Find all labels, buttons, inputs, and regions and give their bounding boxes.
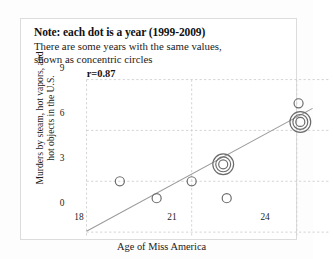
data-point [213, 154, 234, 175]
data-point-ring [294, 99, 303, 108]
data-point-ring [152, 194, 161, 203]
data-point-ring [293, 114, 308, 129]
scatter-plot-canvas [21, 19, 333, 259]
data-point-ring [219, 160, 228, 169]
data-point [152, 194, 161, 203]
data-point-ring [216, 157, 231, 172]
data-point [294, 99, 303, 108]
chart-card: Note: each dot is a year (1999-2009) The… [20, 18, 297, 240]
data-point [290, 112, 311, 133]
data-point [222, 194, 231, 203]
data-point-ring [222, 194, 231, 203]
trend-line [87, 108, 313, 231]
